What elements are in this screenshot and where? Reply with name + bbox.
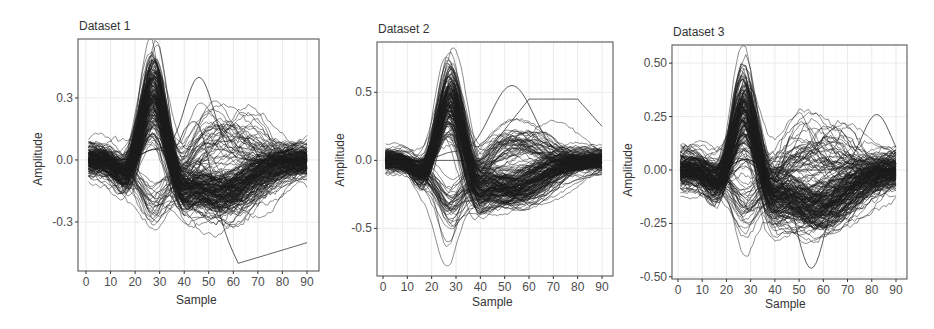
x-tick-label: 20: [720, 283, 734, 297]
y-tick-label: -0.50: [640, 270, 668, 284]
x-tick-label: 80: [865, 283, 879, 297]
x-tick-label: 0: [675, 283, 682, 297]
y-tick-label: 0.25: [644, 110, 668, 124]
y-tick-label: 0.00: [644, 163, 668, 177]
x-tick-label: 90: [889, 283, 903, 297]
x-tick-label: 40: [768, 283, 782, 297]
y-tick-label: -0.25: [640, 216, 668, 230]
x-tick-label: 30: [744, 283, 758, 297]
line-plot: 0.500.250.00-0.25-0.50010203040506070809…: [0, 0, 934, 329]
x-tick-label: 60: [817, 283, 831, 297]
x-tick-label: 50: [792, 283, 806, 297]
x-tick-label: 70: [841, 283, 855, 297]
y-axis-ticks: 0.500.250.00-0.25-0.50: [640, 56, 672, 284]
x-axis-ticks: 0102030405060708090: [675, 279, 903, 297]
x-tick-label: 10: [696, 283, 710, 297]
y-tick-label: 0.50: [644, 56, 668, 70]
